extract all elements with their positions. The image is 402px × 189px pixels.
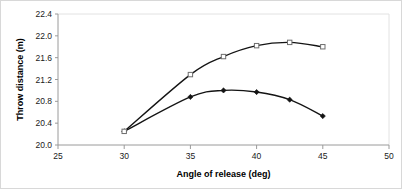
y-tick-label: 20.4 (35, 118, 52, 128)
data-point-marker (321, 45, 325, 49)
chart-canvas: 20.020.420.821.221.622.022.4 25303540455… (1, 1, 402, 189)
plot-frame (58, 14, 389, 145)
data-point-marker (221, 54, 225, 58)
series-upper-series (122, 40, 325, 133)
series-line (124, 90, 323, 131)
y-axis-title: Throw distance (m) (15, 38, 25, 121)
data-point-marker (122, 129, 126, 133)
x-tick-label: 30 (119, 151, 129, 161)
series-lower-series (122, 88, 326, 134)
y-tick-label: 21.2 (35, 75, 52, 85)
data-point-marker (188, 72, 192, 76)
x-tick-label: 40 (252, 151, 262, 161)
x-axis-ticks: 253035404550 (53, 145, 394, 161)
y-tick-label: 20.8 (35, 96, 52, 106)
x-tick-label: 50 (384, 151, 394, 161)
data-point-marker (320, 113, 325, 118)
data-point-marker (221, 88, 226, 93)
data-point-marker (188, 94, 193, 99)
y-axis: 20.020.420.821.221.622.022.4 (35, 9, 58, 150)
y-tick-label: 22.4 (35, 9, 52, 19)
x-tick-label: 35 (186, 151, 196, 161)
y-tick-label: 22.0 (35, 31, 52, 41)
x-tick-label: 45 (318, 151, 328, 161)
data-series-layer (122, 40, 326, 134)
data-point-marker (254, 89, 259, 94)
y-axis-ticks: 20.020.420.821.221.622.022.4 (35, 9, 58, 150)
x-axis: 253035404550 (53, 145, 394, 161)
data-point-marker (288, 40, 292, 44)
data-point-marker (287, 97, 292, 102)
x-tick-label: 25 (53, 151, 63, 161)
x-axis-title: Angle of release (deg) (176, 169, 270, 179)
y-tick-label: 21.6 (35, 53, 52, 63)
y-tick-label: 20.0 (35, 140, 52, 150)
data-point-marker (254, 43, 258, 47)
chart-figure: 20.020.420.821.221.622.022.4 25303540455… (0, 0, 402, 189)
